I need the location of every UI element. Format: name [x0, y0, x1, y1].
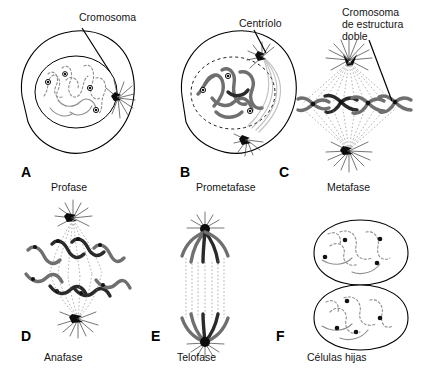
- panel-a-profase: [21, 28, 135, 153]
- pole-bottom-c: [326, 142, 372, 172]
- panel-c-metafase: [298, 38, 411, 172]
- panel-letter-e: E: [151, 328, 160, 344]
- panel-letter-b: B: [180, 164, 190, 180]
- callout-centriolo: Centríolo: [239, 17, 282, 29]
- metaphase-plate-c: [298, 95, 411, 113]
- phase-label-profase: Profase: [51, 181, 87, 193]
- spindle-bottom-d: [50, 272, 102, 318]
- callout-cromosoma-doble-line2: de estructura: [342, 18, 403, 30]
- phase-label-telofase: Telofase: [177, 351, 216, 363]
- interzonal-spindle-e: [186, 258, 224, 318]
- callout-cromosoma: Cromosoma: [79, 11, 136, 23]
- panel-f-celulas-hijas: [314, 220, 408, 350]
- chromosomes-upper-d: [28, 237, 124, 263]
- spindle-bottom-c: [303, 109, 395, 150]
- panel-letter-f: F: [276, 328, 285, 344]
- callout-cromosoma-doble: Cromosoma de estructura doble: [342, 6, 438, 42]
- daughter-cell-top: [314, 220, 408, 285]
- pole-bottom-d: [58, 312, 98, 338]
- pole-top-d: [55, 200, 92, 226]
- callout-cromosoma-doble-line3: doble: [342, 30, 368, 42]
- phase-label-prometafase: Prometafase: [196, 181, 256, 193]
- panel-b-prometafase: [181, 30, 296, 156]
- callout-cromosoma-doble-line1: Cromosoma: [342, 6, 399, 18]
- daughter-cell-bottom: [314, 285, 408, 350]
- phase-label-anafase: Anafase: [44, 351, 83, 363]
- panel-e-telofase: [182, 212, 228, 358]
- pole-top-c: [326, 38, 372, 70]
- phase-label-metafase: Metafase: [327, 181, 370, 193]
- panel-d-anafase: [26, 200, 130, 338]
- panel-letter-a: A: [21, 164, 31, 180]
- panel-letter-d: D: [21, 328, 31, 344]
- panel-letter-c: C: [279, 164, 289, 180]
- chromosomes-lower-d: [26, 274, 130, 296]
- chromosome-cluster-top-e: [182, 232, 228, 262]
- chromosome-double-1: [298, 98, 329, 111]
- mitosis-diagram: Cromosoma Centríolo Cromosoma de estruct…: [0, 0, 440, 378]
- phase-label-celulas-hijas: Células hijas: [307, 351, 367, 363]
